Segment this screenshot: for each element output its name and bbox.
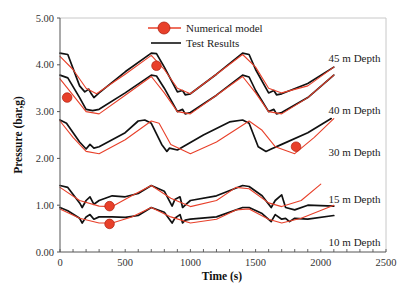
axes: 0.001.002.003.004.005.000500100015002000… xyxy=(36,13,397,269)
y-tick-label: 0.00 xyxy=(36,247,54,258)
model-marker-icon xyxy=(105,219,115,229)
y-tick-label: 4.00 xyxy=(36,59,54,70)
x-axis-title: Time (s) xyxy=(202,270,243,283)
depth-label: 30 m Depth xyxy=(329,146,381,158)
x-tick-label: 2000 xyxy=(310,257,331,268)
legend-model-label: Numerical model xyxy=(186,22,263,34)
depth-labels: 45 m Depth40 m Depth30 m Depth15 m Depth… xyxy=(329,52,381,248)
depth-label: 40 m Depth xyxy=(329,104,381,116)
test-curve-2 xyxy=(60,119,331,152)
model-marker-icon xyxy=(291,142,301,152)
x-tick-label: 1000 xyxy=(180,257,201,268)
model-marker-icon xyxy=(152,61,162,71)
data-series xyxy=(60,53,334,223)
y-tick-label: 5.00 xyxy=(36,13,54,24)
depth-label: 10 m Depth xyxy=(329,236,381,248)
x-tick-label: 1500 xyxy=(245,257,266,268)
depth-label: 45 m Depth xyxy=(329,52,381,64)
legend-model-marker-icon xyxy=(158,22,170,34)
depth-label: 15 m Depth xyxy=(329,193,381,205)
y-tick-label: 3.00 xyxy=(36,106,54,117)
y-tick-label: 1.00 xyxy=(36,200,54,211)
y-axis-title: Pressure (bar,g) xyxy=(12,96,25,174)
x-tick-label: 0 xyxy=(57,257,62,268)
model-curve-4 xyxy=(60,205,334,223)
pressure-time-chart: 0.001.002.003.004.005.000500100015002000… xyxy=(0,0,408,298)
legend: Numerical model Test Results xyxy=(148,22,263,49)
legend-test-label: Test Results xyxy=(186,37,239,49)
x-tick-label: 500 xyxy=(117,257,133,268)
model-marker-icon xyxy=(105,201,115,211)
test-curve-1 xyxy=(60,75,334,114)
model-marker-icon xyxy=(62,93,72,103)
y-tick-label: 2.00 xyxy=(36,153,54,164)
x-tick-label: 2500 xyxy=(376,257,397,268)
